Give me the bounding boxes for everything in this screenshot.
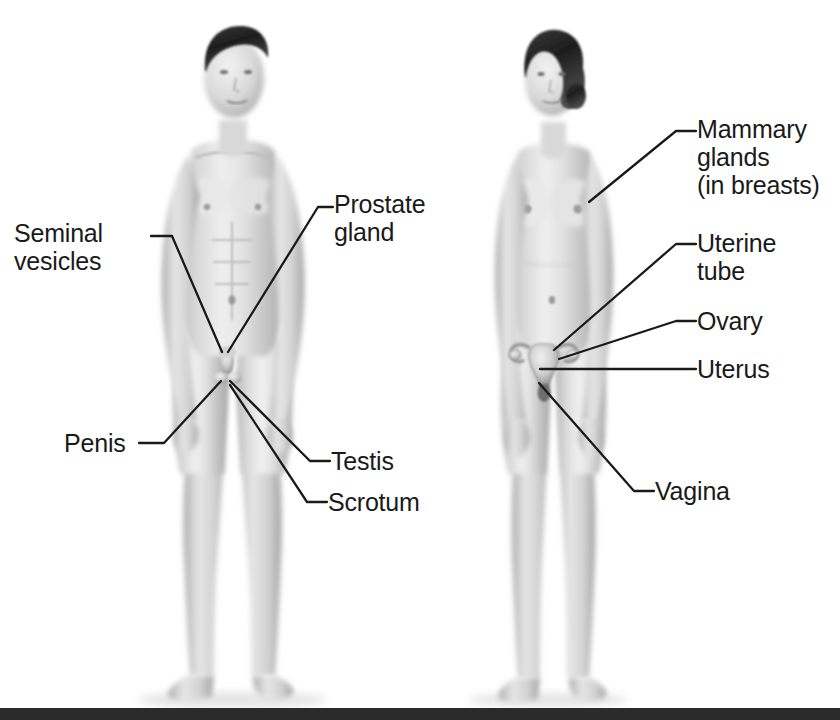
leader-mammary-glands <box>589 131 696 202</box>
label-uterus: Uterus <box>697 355 769 383</box>
label-line: Seminal <box>14 219 103 247</box>
label-vagina: Vagina <box>655 477 730 505</box>
label-prostate-gland: Prostate gland <box>334 190 426 246</box>
label-line: gland <box>334 218 394 246</box>
label-penis: Penis <box>64 429 126 457</box>
label-line: Mammary <box>697 115 807 143</box>
label-line: Penis <box>64 429 126 457</box>
label-line: vesicles <box>14 247 101 275</box>
label-mammary-glands: Mammary glands (in breasts) <box>697 115 820 199</box>
label-line: tube <box>697 257 745 285</box>
label-line: Vagina <box>655 477 730 505</box>
label-line: Ovary <box>697 307 763 335</box>
label-line: Scrotum <box>328 488 420 516</box>
label-line: (in breasts) <box>697 171 820 199</box>
bottom-rule <box>0 708 840 720</box>
label-line: Uterus <box>697 355 769 383</box>
label-uterine-tube: Uterine tube <box>697 229 776 285</box>
male-body-illustration <box>137 26 327 708</box>
label-line: Prostate <box>334 190 426 218</box>
label-line: Uterine <box>697 229 776 257</box>
female-body-illustration <box>468 30 628 707</box>
label-ovary: Ovary <box>697 307 763 335</box>
anatomy-figure: Seminal vesicles Prostate gland Penis Te… <box>0 0 840 720</box>
label-scrotum: Scrotum <box>328 488 420 516</box>
label-line: Testis <box>331 447 394 475</box>
label-line: glands <box>697 143 769 171</box>
label-seminal-vesicles: Seminal vesicles <box>14 219 103 275</box>
label-testis: Testis <box>331 447 394 475</box>
